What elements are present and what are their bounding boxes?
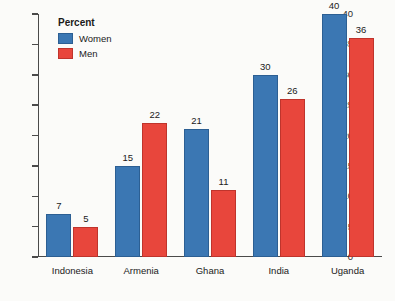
y-tick-mark	[32, 196, 38, 198]
bar-armenia-women	[115, 166, 140, 257]
bar-indonesia-men	[73, 227, 98, 257]
y-tick-mark	[32, 165, 38, 167]
y-tick-mark	[32, 226, 38, 228]
bar-value-label: 5	[67, 214, 104, 224]
bar-india-men	[280, 99, 305, 257]
bar-value-label: 21	[178, 116, 215, 126]
bar-uganda-women	[322, 14, 347, 257]
y-tick-mark	[32, 104, 38, 106]
bar-chart: Percent Women Men 0510152025303540 75152…	[0, 0, 395, 301]
bar-value-label: 30	[247, 62, 284, 72]
bar-value-label: 7	[40, 201, 77, 211]
y-tick-mark	[32, 74, 38, 76]
bar-value-label: 22	[136, 110, 173, 120]
bar-value-label: 40	[316, 1, 353, 11]
y-tick-mark	[32, 256, 38, 258]
bar-uganda-men	[349, 38, 374, 257]
bar-value-label: 11	[205, 177, 242, 187]
bar-india-women	[253, 75, 278, 257]
bar-ghana-men	[211, 190, 236, 257]
y-tick-mark	[32, 13, 38, 15]
bar-ghana-women	[184, 129, 209, 257]
bar-value-label: 36	[343, 25, 380, 35]
y-tick-mark	[32, 44, 38, 46]
bar-value-label: 15	[109, 153, 146, 163]
y-tick-mark	[32, 135, 38, 137]
x-category-label: Uganda	[307, 266, 388, 276]
bar-value-label: 26	[274, 86, 311, 96]
bar-armenia-men	[142, 123, 167, 257]
